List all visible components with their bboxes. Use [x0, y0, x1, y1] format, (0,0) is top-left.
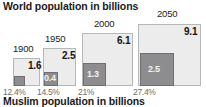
muslim-value-2000: 1.3	[87, 69, 99, 79]
year-label-2050: 2050	[157, 8, 177, 19]
muslim-value-2050: 2.5	[148, 64, 160, 74]
chart-footer-label: Muslim population in billions	[3, 95, 145, 107]
year-label-2000: 2000	[94, 18, 114, 29]
world-value-1900: 1.6	[28, 60, 41, 71]
muslim-value-1950: 0.4	[44, 73, 56, 83]
year-label-1950: 1950	[45, 33, 65, 44]
muslim-square-1900	[14, 76, 25, 86]
world-value-1950: 2.5	[62, 50, 75, 61]
world-value-2000: 6.1	[117, 35, 130, 46]
population-comparison-chart: World population in billions 1900 1.6 12…	[0, 0, 206, 107]
world-value-2050: 9.1	[184, 26, 197, 37]
year-label-1900: 1900	[13, 43, 33, 54]
chart-title: World population in billions	[3, 0, 138, 12]
